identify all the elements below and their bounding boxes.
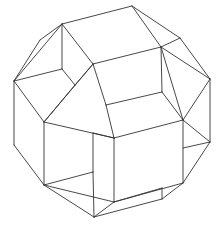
edge-EF — [180, 38, 210, 79]
edge-SU — [14, 145, 44, 185]
edge-UZ — [44, 185, 94, 217]
edge-GH — [14, 69, 62, 81]
edge-MP — [114, 120, 183, 138]
edge-UY — [44, 185, 114, 202]
edge-XZ — [94, 199, 162, 217]
edge-QV — [183, 142, 210, 183]
edge-KM — [162, 92, 183, 120]
edge-MQ — [183, 120, 210, 142]
edge-ED — [161, 38, 180, 47]
edge-OP — [93, 133, 114, 138]
edge-VX — [162, 183, 183, 199]
edge-AB — [62, 6, 132, 24]
polyhedron-figure — [0, 0, 216, 235]
edge-LP — [106, 105, 114, 138]
edge-KL — [106, 92, 162, 105]
edge-TZ — [93, 172, 94, 217]
edge-DK — [161, 47, 162, 92]
edge-JL — [93, 64, 106, 105]
edge-AJ — [62, 24, 93, 64]
edge-GN — [14, 81, 44, 122]
edge-TU — [44, 172, 93, 185]
edge-DF — [161, 47, 210, 79]
edge-BE — [132, 6, 180, 38]
edge-BD — [132, 6, 161, 47]
edge-JN — [44, 64, 93, 122]
polyhedron-edges — [14, 6, 210, 217]
edge-QR — [183, 142, 210, 148]
edge-DJ — [93, 47, 161, 64]
edge-AG — [14, 24, 62, 81]
edge-YW — [114, 188, 162, 202]
edge-FM — [183, 79, 210, 120]
edge-HI — [62, 69, 75, 85]
edge-DM — [161, 47, 183, 120]
edge-CG — [14, 40, 40, 81]
